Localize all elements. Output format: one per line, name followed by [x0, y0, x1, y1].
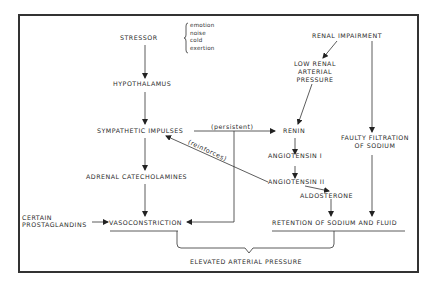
- faulty-filtration-line: OF SODIUM: [340, 142, 410, 150]
- low-renal-line: ARTERIAL: [290, 68, 340, 76]
- node-hypothalamus: HYPOTHALAMUS: [113, 80, 171, 88]
- node-adrenal-catecholamines: ADRENAL CATECHOLAMINES: [86, 173, 187, 181]
- node-retention: RETENTION OF SODIUM AND FLUID: [272, 219, 397, 227]
- node-elevated-arterial-pressure: ELEVATED ARTERIAL PRESSURE: [190, 258, 302, 266]
- stressor-type: noise: [190, 30, 215, 38]
- node-renin: RENIN: [283, 127, 305, 135]
- node-sympathetic-impulses: SYMPATHETIC IMPULSES: [97, 127, 183, 135]
- node-angiotensin-2: ANGIOTENSIN II: [268, 178, 325, 186]
- stressor-type: exertion: [190, 45, 215, 53]
- node-renal-impairment: RENAL IMPAIRMENT: [312, 32, 382, 40]
- stressor-types-list: emotion noise cold exertion: [190, 22, 215, 52]
- low-renal-line: PRESSURE: [290, 76, 340, 84]
- low-renal-line: LOW RENAL: [290, 60, 340, 68]
- node-vasoconstriction: VASOCONSTRICTION: [109, 219, 182, 227]
- stressor-type: emotion: [190, 22, 215, 30]
- node-angiotensin-1: ANGIOTENSIN I: [268, 152, 322, 160]
- node-stressor: STRESSOR: [120, 34, 158, 42]
- node-faulty-filtration: FAULTY FILTRATION OF SODIUM: [340, 134, 410, 150]
- faulty-filtration-line: FAULTY FILTRATION: [340, 134, 410, 142]
- edge-label-persistent: (persistent): [211, 123, 254, 131]
- prostaglandins-line: PROSTAGLANDINS: [22, 222, 87, 229]
- stressor-type: cold: [190, 37, 215, 45]
- node-aldosterone: ALDOSTERONE: [300, 192, 353, 200]
- node-certain-prostaglandins: CERTAIN PROSTAGLANDINS: [22, 215, 87, 228]
- node-low-renal-arterial-pressure: LOW RENAL ARTERIAL PRESSURE: [290, 60, 340, 83]
